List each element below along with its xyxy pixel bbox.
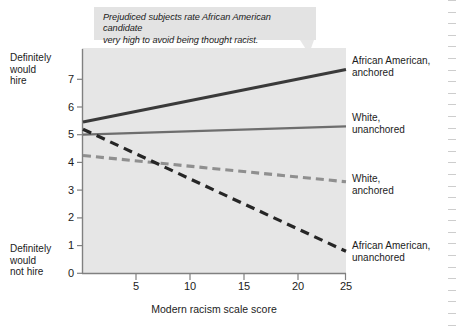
series-label-aa-unanchored-line-2: unanchored (352, 252, 452, 264)
series-label-aa-unanchored: African American, unanchored (352, 240, 452, 263)
series-line-aa-unanchored (83, 129, 346, 251)
series-label-aa-unanchored-line-1: African American, (352, 240, 452, 252)
x-tick-label-25: 25 (335, 281, 357, 292)
series-label-aa-anchored-line-1: African American, (352, 55, 452, 67)
y-anchor-bottom-line-1: Definitely (10, 243, 76, 255)
figure-chart: Prejudiced subjects rate African America… (0, 0, 456, 332)
series-label-white-anchored-line-1: White, (352, 173, 452, 185)
y-anchor-top-line-3: hire (10, 75, 76, 87)
x-tick-label-15: 15 (233, 281, 255, 292)
series-line-white-unanchored (83, 126, 346, 134)
x-tick-label-20: 20 (287, 281, 309, 292)
series-label-aa-anchored: African American, anchored (352, 55, 452, 78)
series-line-white-anchored (83, 156, 346, 182)
y-anchor-bottom-line-2: would (10, 255, 76, 267)
y-tick-label-3: 3 (58, 185, 74, 196)
y-tick-label-4: 4 (58, 157, 74, 168)
y-tick-label-6: 6 (58, 102, 74, 113)
y-axis-anchor-bottom: Definitely would not hire (10, 243, 76, 278)
y-tick-label-2: 2 (58, 212, 74, 223)
series-label-white-unanchored-line-1: White, (352, 112, 452, 124)
series-line-aa-anchored (83, 70, 346, 123)
y-tick-label-5: 5 (58, 129, 74, 140)
y-anchor-top-line-2: would (10, 64, 76, 76)
x-tick-label-5: 5 (125, 281, 147, 292)
series-label-white-anchored: White, anchored (352, 173, 452, 196)
y-anchor-bottom-line-3: not hire (10, 266, 76, 278)
x-axis-title: Modern racism scale score (82, 303, 346, 315)
series-label-white-anchored-line-2: anchored (352, 185, 452, 197)
page-edge-text-bleed (445, 0, 456, 332)
y-axis-anchor-top: Definitely would hire (10, 52, 76, 87)
series-label-aa-anchored-line-2: anchored (352, 67, 452, 79)
x-tick-label-10: 10 (179, 281, 201, 292)
y-anchor-top-line-1: Definitely (10, 52, 76, 64)
series-label-white-unanchored: White, unanchored (352, 112, 452, 135)
series-label-white-unanchored-line-2: unanchored (352, 124, 452, 136)
